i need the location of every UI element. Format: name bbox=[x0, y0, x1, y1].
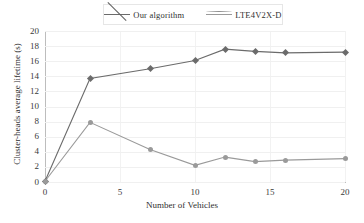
plot-area bbox=[45, 31, 345, 182]
chart-figure: Our algorithm LTE4V2X-D 0246810121416182… bbox=[0, 0, 364, 223]
circle-marker-icon bbox=[283, 158, 288, 163]
circle-marker-icon bbox=[253, 159, 258, 164]
series-line-lte4v2x-d bbox=[45, 122, 345, 181]
circle-marker-icon bbox=[88, 120, 93, 125]
circle-marker-icon bbox=[343, 156, 348, 161]
x-axis-title: Number of Vehicles bbox=[0, 200, 364, 210]
legend-label: Our algorithm bbox=[133, 10, 184, 20]
x-tick-label: 0 bbox=[32, 188, 58, 197]
x-tick-label: 10 bbox=[182, 188, 208, 197]
y-gridline bbox=[45, 182, 345, 183]
circle-marker-icon bbox=[193, 163, 198, 168]
legend-item-lte4v2x-d: LTE4V2X-D bbox=[206, 10, 281, 20]
chart-legend: Our algorithm LTE4V2X-D bbox=[103, 4, 283, 25]
diamond-marker-icon bbox=[108, 2, 127, 21]
x-tick-label: 5 bbox=[107, 188, 133, 197]
series-line-our-algorithm bbox=[45, 49, 345, 181]
circle-marker-icon bbox=[206, 11, 232, 12]
y-axis-title: Cluster-heads average lifetime (s) bbox=[12, 29, 22, 179]
series-lines bbox=[45, 31, 345, 182]
circle-marker-icon bbox=[223, 155, 228, 160]
legend-item-our-algorithm: Our algorithm bbox=[104, 10, 184, 20]
x-tick-label: 15 bbox=[257, 188, 283, 197]
legend-line-swatch bbox=[206, 10, 232, 19]
legend-line-swatch bbox=[104, 10, 130, 19]
circle-marker-icon bbox=[43, 179, 48, 184]
legend-label: LTE4V2X-D bbox=[235, 10, 281, 20]
x-tick-label: 20 bbox=[332, 188, 358, 197]
circle-marker-icon bbox=[148, 147, 153, 152]
